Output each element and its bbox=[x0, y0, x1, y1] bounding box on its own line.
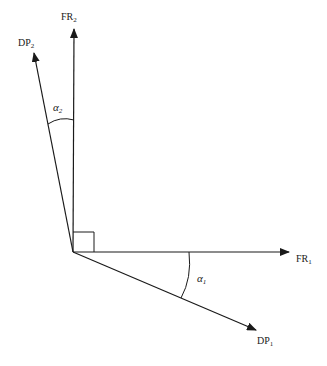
alpha1-sub: 1 bbox=[203, 278, 207, 286]
fr2-label: FR2 bbox=[61, 12, 77, 22]
alpha2-sub: 2 bbox=[59, 107, 63, 115]
alpha2-angle-arc bbox=[48, 119, 74, 124]
dp1-label: DP1 bbox=[257, 336, 273, 346]
dp1-vector-arrow bbox=[73, 252, 256, 330]
fr1-label-main: FR bbox=[296, 253, 308, 264]
diagram-canvas bbox=[0, 0, 327, 366]
alpha1-label: α1 bbox=[197, 273, 206, 284]
dp2-vector-arrow bbox=[34, 53, 73, 252]
alpha2-label: α2 bbox=[53, 102, 62, 113]
dp2-label-main: DP bbox=[18, 37, 31, 48]
alpha1-angle-arc bbox=[181, 252, 190, 298]
fr2-label-main: FR bbox=[61, 11, 73, 22]
dp2-label: DP2 bbox=[18, 38, 34, 48]
fr2-vector-arrow bbox=[73, 29, 74, 252]
fr1-label-sub: 1 bbox=[308, 258, 312, 266]
right-angle-marker bbox=[73, 232, 94, 252]
fr1-label: FR1 bbox=[296, 254, 312, 264]
design-vector-diagram: FR2 DP2 FR1 DP1 α2 α1 bbox=[0, 0, 327, 366]
dp1-label-main: DP bbox=[257, 335, 270, 346]
fr2-label-sub: 2 bbox=[73, 16, 77, 24]
dp2-label-sub: 2 bbox=[31, 42, 35, 50]
dp1-label-sub: 1 bbox=[270, 340, 274, 348]
